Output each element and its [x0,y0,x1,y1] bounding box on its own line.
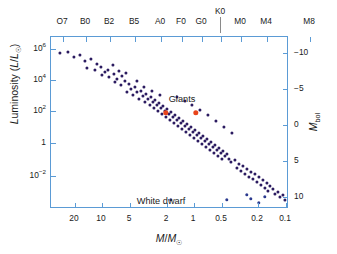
axis-tick [258,203,259,208]
top-axis-label: A0 [155,17,165,25]
axis-tick [286,203,287,208]
axis-tick [110,37,111,42]
right-axis-label: 0 [294,120,299,128]
top-axis-label: M4 [260,17,272,25]
data-point [214,119,217,122]
data-point [127,82,130,85]
data-point [181,119,184,122]
data-point [233,158,236,161]
data-point [144,92,147,95]
data-point [205,137,208,140]
data-point [235,166,238,169]
data-point [208,148,211,151]
bottom-axis-label: 2 [164,214,169,222]
top-axis-label: M8 [303,17,315,25]
bottom-axis-label: 1 [191,214,196,222]
data-point [169,110,172,113]
axis-tick [194,203,195,208]
data-point [229,160,232,163]
data-point [161,104,164,107]
data-point [173,113,176,116]
data-point [237,162,240,165]
data-point [225,152,228,155]
data-point [216,154,219,157]
data-point [83,59,86,62]
data-point [142,85,145,88]
scatter-points-layer [51,37,287,207]
data-point [221,149,224,152]
data-point [135,79,138,82]
data-point [193,128,196,131]
data-point [125,90,128,93]
data-point [176,124,179,127]
data-point [139,89,142,92]
data-point [247,175,250,178]
data-point [184,130,187,133]
bottom-axis-label: 20 [69,214,78,222]
axis-tick [283,197,288,198]
data-point [164,115,167,118]
data-point [95,62,98,65]
data-point [243,172,246,175]
data-point [241,164,244,167]
data-point [99,65,102,68]
plot-area: Giants White dwarf [50,36,288,208]
axis-tick [102,203,103,208]
top-axis-label: B0 [80,17,90,25]
top-axis-label: G0 [195,17,206,25]
data-point [119,83,122,86]
axis-tick [86,37,87,42]
data-point [196,139,199,142]
data-point [148,103,151,106]
data-point [206,113,209,116]
data-point [117,69,120,72]
data-point [106,68,109,71]
data-point [213,143,216,146]
y-axis-title-left: Luminosity (L/L☉) [8,24,20,144]
data-point [283,198,286,201]
data-point [261,178,264,181]
axis-tick [241,37,242,42]
data-point [245,167,248,170]
axis-tick [51,80,56,81]
top-axis-label: B2 [104,17,114,25]
data-point [85,66,88,69]
axis-tick [283,53,288,54]
data-point [180,127,183,130]
data-point [156,109,159,112]
axis-tick [221,37,222,42]
data-point [58,51,61,54]
data-point [193,110,198,115]
top-axis-label: O7 [56,17,67,25]
bottom-axis-label: 5 [127,214,132,222]
data-point [123,79,126,82]
data-point [209,140,212,143]
data-point [253,172,256,175]
annotation-white-dwarf: White dwarf [137,196,186,206]
data-point [220,157,223,160]
x-axis-title: M/M☉ [50,232,288,244]
data-point [172,121,175,124]
axis-tick [202,37,203,42]
axis-tick [222,203,223,208]
data-point [259,183,262,186]
data-point [188,133,191,136]
axis-tick [182,37,183,42]
data-point [100,73,103,76]
data-point [89,57,92,60]
data-point [177,116,180,119]
axis-tick [283,125,288,126]
data-point [239,169,242,172]
left-axis-label: 1 [41,138,46,146]
data-point [249,197,252,200]
data-point [217,146,220,149]
data-point [204,145,207,148]
bottom-axis-label: 0.1 [279,214,291,222]
axis-tick [283,161,288,162]
left-axis-label: 10−2 [30,171,46,179]
axis-tick [51,49,56,50]
top-axis-label: F0 [176,17,186,25]
data-point [158,93,161,96]
data-point [113,80,116,83]
data-point [271,187,274,190]
